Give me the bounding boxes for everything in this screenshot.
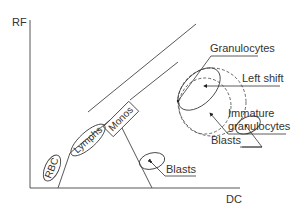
left-shift-annotation: Left shift — [204, 72, 284, 86]
rbc-label: RBC — [42, 156, 60, 180]
y-axis-label: RF — [12, 16, 27, 28]
left-shift-label: Left shift — [242, 72, 284, 84]
granulocytes-label: Granulocytes — [210, 42, 275, 54]
blasts-upper-label: Blasts — [211, 134, 241, 146]
blasts-lower-population: Blasts — [137, 150, 196, 176]
lower-diagonal — [130, 62, 178, 100]
immature-label-line1: Immature — [228, 107, 274, 119]
rbc-population: RBC — [40, 152, 65, 183]
mono-blast-boundary — [122, 128, 152, 188]
blasts-lower-label: Blasts — [166, 163, 196, 175]
cell-population-diagram: RF DC RBC Lymphs Monos Blasts — [0, 0, 303, 212]
monos-population: Monos — [103, 101, 138, 136]
immature-label-line2: granulocytes — [228, 120, 291, 132]
x-axis-label: DC — [226, 193, 242, 205]
upper-diagonal-left — [88, 94, 110, 112]
immature-annotation: Immature granulocytes — [210, 107, 291, 134]
